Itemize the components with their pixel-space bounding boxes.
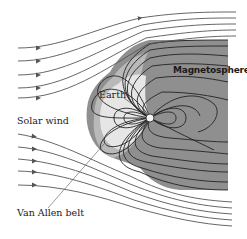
van-allen-belt-label: Van Allen belt [17, 208, 84, 218]
earth-icon [146, 114, 154, 122]
solar-wind-label: Solar wind [17, 116, 69, 126]
magnetosphere-label: Magnetosphere [173, 66, 247, 75]
solar-wind-arrows-bottom [32, 134, 38, 188]
earth-label: Earth [99, 90, 126, 100]
